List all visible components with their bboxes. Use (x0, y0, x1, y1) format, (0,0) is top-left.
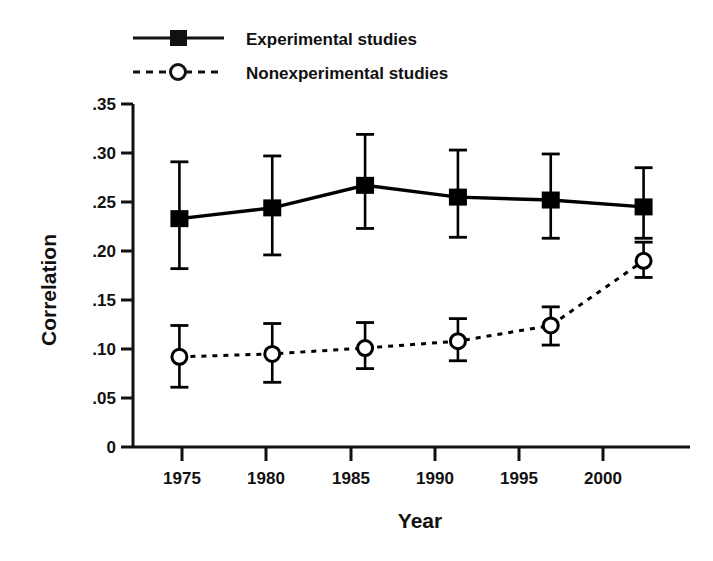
data-point-marker-square (542, 192, 560, 209)
data-point-marker-circle (543, 318, 558, 333)
data-point-marker-square (263, 199, 281, 216)
open-circle-icon (171, 65, 186, 80)
chart-svg: Experimental studies Nonexperimental stu… (0, 0, 713, 561)
series-line (179, 261, 643, 357)
series-experimental (170, 134, 652, 268)
x-tick-label-1995: 1995 (500, 469, 538, 488)
x-tick-label-1975: 1975 (163, 469, 201, 488)
filled-square-icon (170, 30, 187, 46)
x-tick-label-2000: 2000 (584, 469, 622, 488)
x-tick-label-1990: 1990 (416, 469, 454, 488)
x-axis-title: Year (398, 509, 442, 532)
data-point-marker-square (356, 177, 374, 194)
y-tick-label-005: .05 (92, 389, 116, 408)
chart-legend: Experimental studies Nonexperimental stu… (133, 30, 448, 83)
x-tick-label-1980: 1980 (247, 469, 285, 488)
series-line (179, 185, 643, 218)
data-point-marker-circle (265, 346, 280, 361)
y-tick-label-025: .25 (92, 193, 116, 212)
y-tick-label-015: .15 (92, 291, 116, 310)
y-tick-label-010: .10 (92, 340, 116, 359)
y-axis-ticks: .35 .30 .25 .20 .15 .10 .05 0 (92, 95, 133, 457)
legend-item-experimental: Experimental studies (133, 30, 417, 49)
series-nonexperimental (170, 242, 652, 387)
x-tick-label-1985: 1985 (332, 469, 370, 488)
data-point-marker-circle (636, 253, 651, 268)
legend-label-nonexperimental: Nonexperimental studies (246, 64, 448, 83)
data-point-marker-circle (172, 349, 187, 364)
y-axis-title: Correlation (37, 234, 60, 346)
x-axis-ticks: 1975 1980 1985 1990 1995 2000 (163, 447, 622, 488)
y-tick-label-020: .20 (92, 242, 116, 261)
data-point-marker-square (170, 210, 188, 227)
legend-label-experimental: Experimental studies (246, 30, 417, 49)
y-tick-label-035: .35 (92, 95, 116, 114)
data-point-marker-square (449, 189, 467, 206)
y-tick-label-0: 0 (107, 438, 116, 457)
data-point-marker-circle (450, 334, 465, 349)
data-point-marker-square (635, 198, 653, 215)
chart-figure: Experimental studies Nonexperimental stu… (0, 0, 713, 561)
data-point-marker-circle (358, 341, 373, 356)
chart-axes (133, 104, 690, 447)
legend-item-nonexperimental: Nonexperimental studies (133, 64, 448, 83)
chart-series-layer (170, 134, 652, 387)
y-tick-label-030: .30 (92, 144, 116, 163)
